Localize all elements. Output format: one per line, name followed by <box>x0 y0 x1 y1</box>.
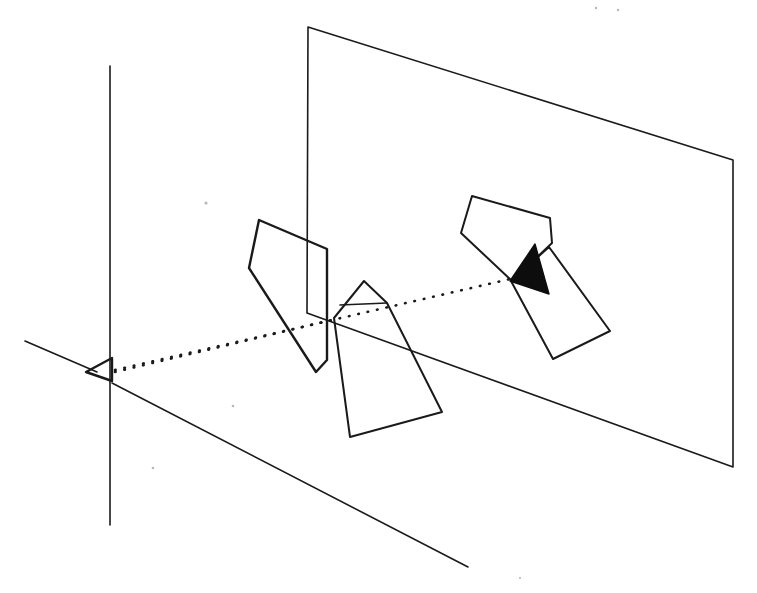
figure-canvas <box>0 0 757 593</box>
scan-speck <box>519 577 521 579</box>
scan-speck <box>232 405 235 408</box>
diagram-background <box>0 0 757 593</box>
scan-speck <box>204 201 207 204</box>
perspective-projection-diagram <box>0 0 757 593</box>
scan-speck <box>595 7 597 9</box>
scan-speck <box>152 467 155 470</box>
scan-speck <box>617 9 619 11</box>
